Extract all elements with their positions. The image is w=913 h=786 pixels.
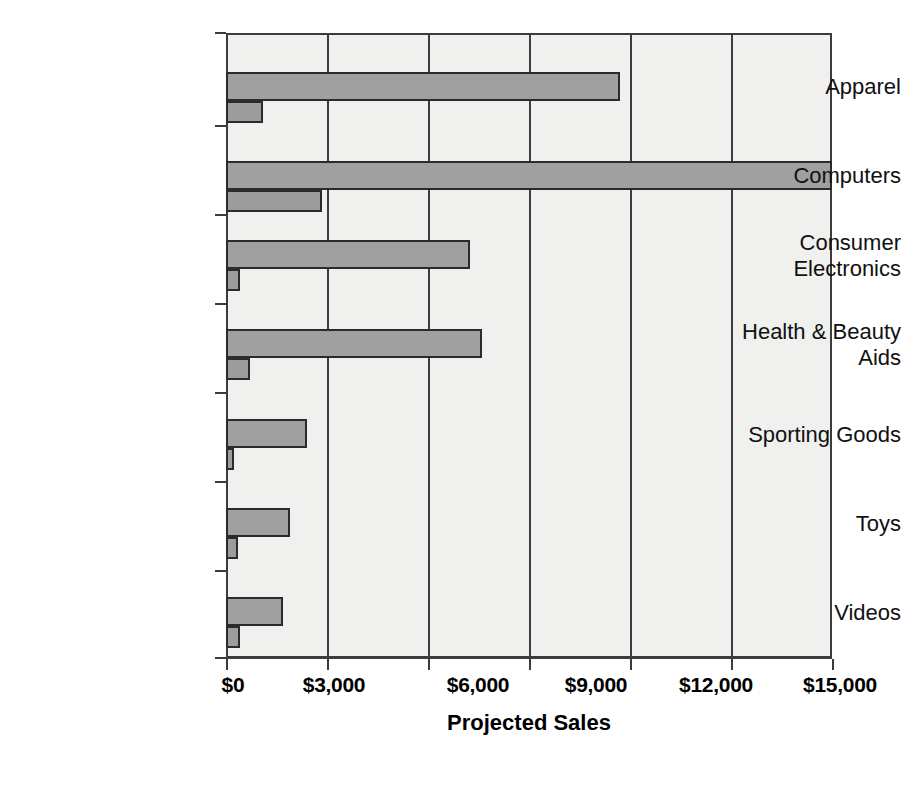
y-axis-tick [215, 481, 226, 483]
y-axis-tick [215, 214, 226, 216]
x-axis-tick-label-0: $0 [222, 673, 245, 697]
bar-sporting-goods-series-1 [226, 419, 307, 448]
category-label-consumer-electronics: Consumer Electronics [699, 230, 913, 282]
bar-videos-series-1 [226, 597, 283, 626]
category-label-health-beauty-aids: Health & Beauty Aids [699, 319, 913, 371]
y-axis-tick [215, 570, 226, 572]
bar-consumer-electronics-series-1 [226, 240, 470, 269]
category-label-videos: Videos [699, 600, 913, 626]
x-axis-tick [832, 659, 834, 670]
bar-apparel-series-2 [226, 101, 263, 123]
category-label-toys: Toys [699, 511, 913, 537]
bar-videos-series-2 [226, 626, 240, 648]
y-axis-tick [215, 303, 226, 305]
x-axis-tick-label-3000: $3,000 [303, 673, 365, 697]
bar-sporting-goods-series-2 [226, 448, 234, 470]
bar-health-beauty-aids-series-2 [226, 358, 250, 380]
x-axis-tick [630, 659, 632, 670]
category-label-apparel: Apparel [699, 74, 913, 100]
gridline-12000 [630, 35, 632, 656]
category-label-computers: Computers [699, 163, 913, 189]
y-axis-tick [215, 657, 226, 659]
x-axis-tick-label-9000: $9,000 [565, 673, 627, 697]
bar-toys-series-2 [226, 537, 238, 559]
gridline-9000 [529, 35, 531, 656]
bar-computers-series-2 [226, 190, 322, 212]
x-axis-tick-label-12000: $12,000 [679, 673, 753, 697]
bar-toys-series-1 [226, 508, 290, 537]
x-axis-tick [327, 659, 329, 670]
x-axis-tick [428, 659, 430, 670]
x-axis-tick [226, 659, 228, 670]
bar-consumer-electronics-series-2 [226, 269, 240, 291]
x-axis-tick-label-6000: $6,000 [447, 673, 509, 697]
x-axis-tick [731, 659, 733, 670]
category-label-sporting-goods: Sporting Goods [699, 422, 913, 448]
y-axis-tick [215, 125, 226, 127]
bar-health-beauty-aids-series-1 [226, 329, 482, 358]
y-axis-tick [215, 32, 226, 34]
y-axis-tick [215, 392, 226, 394]
x-axis-tick [529, 659, 531, 670]
bar-apparel-series-1 [226, 72, 620, 101]
projected-sales-bar-chart: Apparel Computers Consumer Electronics H… [0, 0, 913, 786]
x-axis-title: Projected Sales [226, 710, 832, 736]
x-axis-tick-label-15000: $15,000 [803, 673, 877, 697]
